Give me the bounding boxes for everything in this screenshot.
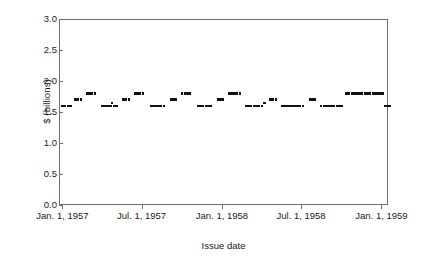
x-axis-title: Issue date bbox=[59, 240, 388, 251]
y-tick-mark bbox=[59, 143, 63, 144]
y-tick-mark bbox=[59, 19, 63, 20]
x-tick-mark bbox=[381, 205, 382, 209]
y-tick-label: 3.0 bbox=[13, 14, 57, 24]
x-tick-mark bbox=[142, 205, 143, 209]
y-tick-label: 0.0 bbox=[13, 200, 57, 210]
x-tick-mark bbox=[222, 205, 223, 209]
y-tick-mark bbox=[59, 174, 63, 175]
y-tick-label: 0.5 bbox=[13, 169, 57, 179]
y-tick-mark bbox=[59, 112, 63, 113]
plot-area bbox=[59, 19, 388, 205]
y-axis-title: $ (billions) bbox=[41, 42, 52, 162]
x-tick-label: Jan. 1, 1957 bbox=[17, 210, 107, 221]
x-tick-label: Jul. 1, 1957 bbox=[97, 210, 187, 221]
chart-container: 3.02.52.01.51.00.50.0 $ (billions) Jan. … bbox=[0, 0, 426, 269]
x-tick-label: Jan. 1, 1958 bbox=[177, 210, 267, 221]
x-tick-mark bbox=[301, 205, 302, 209]
x-tick-label: Jan. 1, 1959 bbox=[336, 210, 426, 221]
x-tick-label: Jul. 1, 1958 bbox=[256, 210, 346, 221]
y-tick-mark bbox=[59, 205, 63, 206]
y-tick-mark bbox=[59, 81, 63, 82]
y-tick-mark bbox=[59, 50, 63, 51]
data-point bbox=[389, 105, 391, 107]
